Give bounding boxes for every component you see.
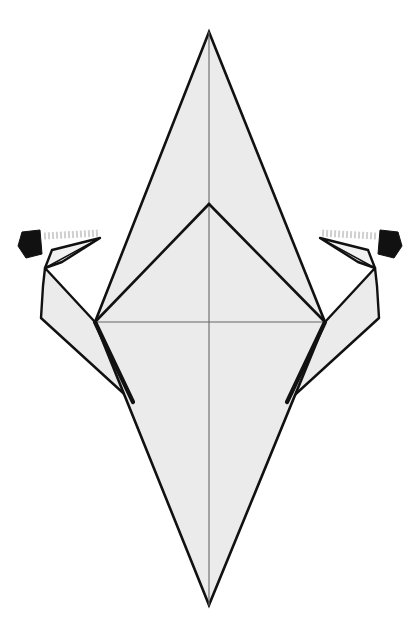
origami-diagram-canvas <box>0 0 414 640</box>
origami-figure <box>0 0 414 640</box>
